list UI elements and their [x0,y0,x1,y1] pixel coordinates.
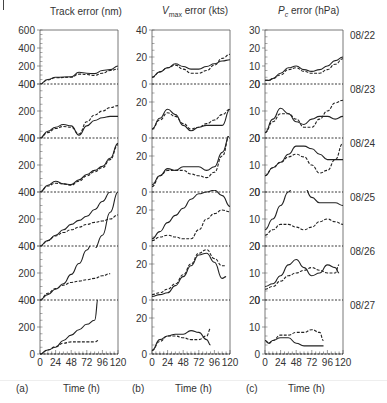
corner-mark [3,0,4,10]
title-v: V [162,5,169,16]
svg-text:20: 20 [136,52,148,63]
title-max-subscript: max [169,11,182,18]
svg-text:20: 20 [249,79,261,90]
svg-text:200: 200 [18,322,35,333]
svg-text:400: 400 [18,187,35,198]
date-label: 08/25 [350,192,375,203]
x-axis-label-b: Time (h) [175,383,212,394]
svg-text:96: 96 [322,357,334,368]
svg-text:120: 120 [335,357,352,368]
svg-text:96: 96 [209,357,221,368]
svg-text:48: 48 [178,357,190,368]
panel-label-b: (b) [132,383,144,394]
svg-text:10: 10 [249,61,261,72]
date-label: 08/23 [350,84,375,95]
panel-a-title: Track error (nm) [50,6,122,17]
x-axis-label-c: Time (h) [288,383,325,394]
svg-text:24: 24 [50,357,62,368]
svg-text:0: 0 [149,357,155,368]
svg-text:24: 24 [275,357,287,368]
svg-text:10: 10 [249,322,261,333]
divider [0,380,387,381]
svg-text:40: 40 [136,25,148,36]
svg-text:0: 0 [262,357,268,368]
chart-panel: 0244872961200200400600020040002004000200… [18,25,126,369]
svg-text:20: 20 [136,259,148,270]
panel-b-title: Vmax error (kts) [162,5,228,18]
title-p: P [278,5,285,16]
svg-text:72: 72 [306,357,318,368]
svg-text:0: 0 [29,349,35,360]
panel-label-c: (c) [246,383,258,394]
svg-text:10: 10 [249,214,261,225]
svg-text:20: 20 [249,295,261,306]
panel-label-a: (a) [16,383,28,394]
svg-text:0: 0 [141,241,147,252]
svg-text:96: 96 [97,357,109,368]
title-c-rest: error (hPa) [288,5,339,16]
date-label: 08/27 [350,300,375,311]
svg-text:20: 20 [249,187,261,198]
svg-text:0: 0 [141,133,147,144]
svg-text:20: 20 [136,151,148,162]
svg-text:20: 20 [136,313,148,324]
svg-text:72: 72 [81,357,93,368]
svg-text:600: 600 [18,25,35,36]
svg-text:200: 200 [18,61,35,72]
svg-text:48: 48 [291,357,303,368]
svg-text:20: 20 [249,133,261,144]
svg-text:20: 20 [136,205,148,216]
svg-text:400: 400 [18,241,35,252]
svg-text:24: 24 [162,357,174,368]
svg-text:10: 10 [249,268,261,279]
panel-c-title: Pc error (hPa) [278,5,339,18]
svg-text:48: 48 [66,357,78,368]
svg-text:10: 10 [249,160,261,171]
x-axis-label-a: Time (h) [63,383,100,394]
svg-text:0: 0 [141,187,147,198]
svg-text:72: 72 [193,357,205,368]
svg-text:400: 400 [18,133,35,144]
svg-text:0: 0 [37,357,43,368]
date-label: 08/22 [350,30,375,41]
figure: 0244872961200200400600020040002004000200… [0,0,387,403]
svg-text:0: 0 [141,349,147,360]
svg-text:30: 30 [249,25,261,36]
chart-panel: 02448729612002040020020020020020 [136,25,239,369]
svg-text:120: 120 [110,357,127,368]
svg-text:200: 200 [18,160,35,171]
svg-text:0: 0 [254,349,260,360]
svg-text:200: 200 [18,106,35,117]
svg-text:200: 200 [18,214,35,225]
svg-text:400: 400 [18,43,35,54]
date-label: 08/24 [350,138,375,149]
title-b-rest: error (kts) [182,5,228,16]
svg-text:0: 0 [141,295,147,306]
chart-panel: 0244872961200102030010200102001020010200… [249,25,352,369]
date-label: 08/26 [350,246,375,257]
svg-text:400: 400 [18,79,35,90]
svg-text:10: 10 [249,106,261,117]
svg-text:20: 20 [249,43,261,54]
svg-text:0: 0 [141,79,147,90]
svg-text:20: 20 [136,97,148,108]
svg-text:20: 20 [249,241,261,252]
chart-canvas: 0244872961200200400600020040002004000200… [0,0,387,403]
svg-text:400: 400 [18,295,35,306]
svg-text:120: 120 [222,357,239,368]
svg-text:200: 200 [18,268,35,279]
